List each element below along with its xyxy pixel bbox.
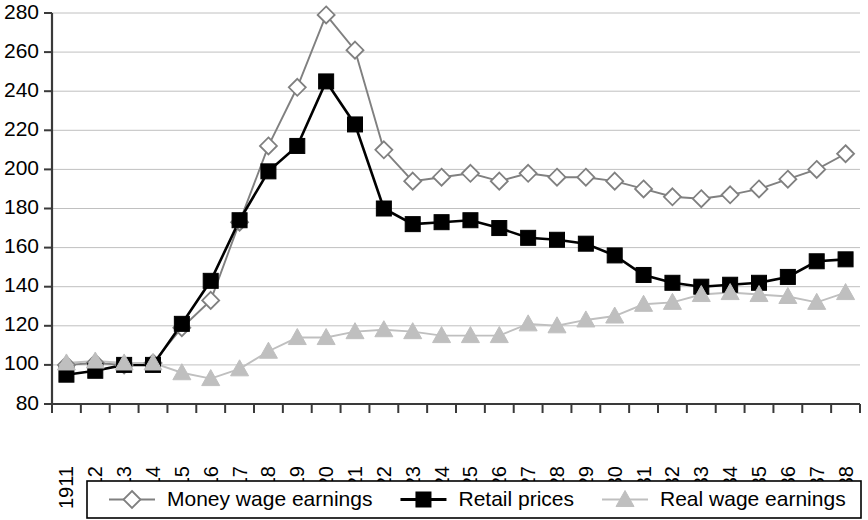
data-point-1-8 bbox=[290, 138, 305, 153]
data-point-1-9 bbox=[319, 74, 334, 89]
y-tick-label: 100 bbox=[4, 351, 39, 374]
data-point-2-19 bbox=[606, 307, 624, 323]
y-tick-labels: 80100120140160180200220240260280 bbox=[4, 0, 39, 414]
y-tick-label: 280 bbox=[4, 0, 39, 23]
data-point-0-7 bbox=[260, 137, 277, 154]
data-point-0-16 bbox=[520, 165, 537, 182]
data-point-2-16 bbox=[519, 315, 537, 331]
data-point-0-14 bbox=[462, 165, 479, 182]
y-tick-label: 140 bbox=[4, 273, 39, 296]
series-markers bbox=[57, 6, 854, 385]
data-point-2-14 bbox=[461, 327, 479, 343]
y-tick-label: 160 bbox=[4, 234, 39, 257]
data-point-2-15 bbox=[490, 327, 508, 343]
legend-label-0: Money wage earnings bbox=[167, 487, 372, 510]
line-chart: 80100120140160180200220240260280 1911191… bbox=[0, 0, 868, 520]
data-point-2-7 bbox=[259, 342, 277, 358]
y-tick-label: 120 bbox=[4, 312, 39, 335]
chart-container: 80100120140160180200220240260280 1911191… bbox=[0, 0, 868, 520]
y-tick-label: 220 bbox=[4, 117, 39, 140]
data-point-1-7 bbox=[261, 164, 276, 179]
data-point-1-13 bbox=[434, 215, 449, 230]
data-point-1-5 bbox=[203, 273, 218, 288]
data-point-0-17 bbox=[549, 169, 566, 186]
data-point-0-23 bbox=[722, 186, 739, 203]
data-point-0-19 bbox=[606, 173, 623, 190]
data-point-0-22 bbox=[693, 190, 710, 207]
data-point-0-13 bbox=[433, 169, 450, 186]
data-point-1-6 bbox=[232, 213, 247, 228]
data-point-1-19 bbox=[607, 248, 622, 263]
y-tick-label: 240 bbox=[4, 78, 39, 101]
legend-label-2: Real wage earnings bbox=[660, 487, 846, 510]
data-point-1-11 bbox=[376, 201, 391, 216]
data-point-0-18 bbox=[577, 169, 594, 186]
x-tick-label: 1911 bbox=[55, 466, 77, 509]
data-point-1-14 bbox=[463, 213, 478, 228]
data-point-2-4 bbox=[173, 364, 191, 380]
data-point-1-4 bbox=[174, 316, 189, 331]
data-point-0-27 bbox=[837, 145, 854, 162]
y-tick-label: 200 bbox=[4, 156, 39, 179]
data-point-0-20 bbox=[635, 180, 652, 197]
data-point-2-8 bbox=[288, 329, 306, 345]
x-axis bbox=[52, 404, 860, 413]
grid-lines bbox=[52, 13, 860, 365]
data-point-1-27 bbox=[838, 252, 853, 267]
data-point-0-8 bbox=[289, 79, 306, 96]
data-point-1-12 bbox=[405, 217, 420, 232]
data-point-0-21 bbox=[664, 188, 681, 205]
y-tick-label: 180 bbox=[4, 195, 39, 218]
data-point-1-15 bbox=[492, 221, 507, 236]
data-point-0-25 bbox=[779, 171, 796, 188]
y-axis bbox=[44, 13, 52, 404]
data-point-1-26 bbox=[809, 254, 824, 269]
y-tick-label: 80 bbox=[16, 391, 39, 414]
data-point-1-20 bbox=[636, 267, 651, 282]
data-point-0-26 bbox=[808, 161, 825, 178]
data-point-1-16 bbox=[521, 230, 536, 245]
data-point-1-17 bbox=[550, 232, 565, 247]
data-point-2-27 bbox=[837, 284, 855, 300]
data-point-2-11 bbox=[375, 321, 393, 337]
data-point-1-18 bbox=[578, 236, 593, 251]
data-point-0-15 bbox=[491, 173, 508, 190]
data-point-1-21 bbox=[665, 275, 680, 290]
y-tick-label: 260 bbox=[4, 39, 39, 62]
legend-label-1: Retail prices bbox=[458, 487, 574, 510]
data-point-1-25 bbox=[780, 269, 795, 284]
data-point-2-6 bbox=[231, 360, 249, 376]
legend-marker-1 bbox=[416, 492, 431, 507]
data-point-0-24 bbox=[751, 180, 768, 197]
data-point-1-10 bbox=[348, 117, 363, 132]
chart-legend: Money wage earningsRetail pricesReal wag… bbox=[87, 481, 861, 518]
